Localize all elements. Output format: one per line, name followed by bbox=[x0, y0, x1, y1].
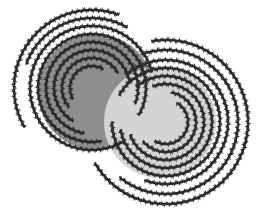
illustration-canvas bbox=[0, 0, 256, 216]
concentric-rings-illustration bbox=[0, 0, 256, 216]
